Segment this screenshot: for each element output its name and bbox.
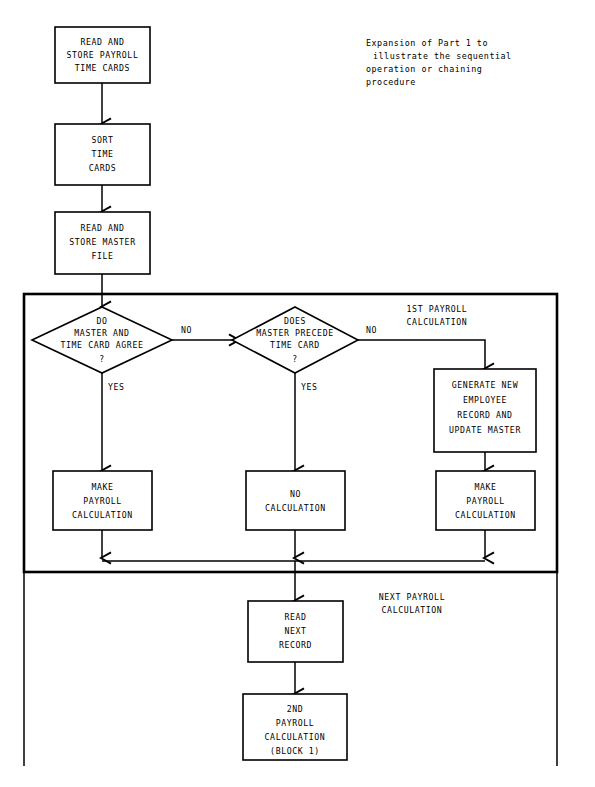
node-second-payroll-calculation[interactable]: 2ND PAYROLL CALCULATION (BLOCK 1) (243, 694, 347, 760)
node-line: STORE MASTER (69, 237, 135, 247)
node-master-time-card-agree[interactable]: DO MASTER AND TIME CARD AGREE ? (32, 307, 172, 373)
connector-decision2-no-to-generate (358, 340, 485, 369)
node-line: TIME CARD AGREE (61, 340, 144, 350)
node-line: NEXT (284, 626, 306, 636)
note-line: procedure (366, 77, 416, 87)
svg-text:CALCULATION: CALCULATION (407, 317, 468, 327)
node-read-next-record[interactable]: READ NEXT RECORD (248, 601, 343, 662)
node-line: STORE PAYROLL (67, 50, 139, 60)
node-line: FILE (91, 251, 113, 261)
node-make-payroll-calculation-left[interactable]: MAKE PAYROLL CALCULATION (53, 471, 152, 530)
node-line: UPDATE MASTER (449, 425, 521, 435)
svg-text:CALCULATION: CALCULATION (382, 605, 443, 615)
node-line: EMPLOYEE (463, 395, 507, 405)
node-generate-new-employee-record[interactable]: GENERATE NEW EMPLOYEE RECORD AND UPDATE … (434, 369, 536, 452)
node-line: TIME CARDS (75, 63, 130, 73)
node-line: NO (290, 489, 301, 499)
node-line: RECORD (279, 640, 312, 650)
svg-text:NO: NO (366, 325, 377, 335)
svg-text:1ST PAYROLL: 1ST PAYROLL (407, 304, 468, 314)
flowchart-sheet: READ AND STORE PAYROLL TIME CARDS SORT T… (0, 0, 595, 787)
section-label-next-payroll: NEXT PAYROLL CALCULATION (379, 592, 445, 615)
node-line: READ AND (80, 37, 124, 47)
node-line: CALCULATION (72, 510, 133, 520)
flowchart-canvas: READ AND STORE PAYROLL TIME CARDS SORT T… (0, 0, 595, 787)
svg-text:NO: NO (181, 325, 192, 335)
node-line: READ AND (80, 223, 124, 233)
node-line: PAYROLL (83, 496, 122, 506)
node-line: GENERATE NEW (452, 380, 518, 390)
node-line: DOES (284, 316, 306, 326)
expansion-note: Expansion of Part 1 to illustrate the se… (366, 38, 512, 87)
node-line: READ (284, 612, 306, 622)
node-line: TIME (91, 149, 113, 159)
node-line: 2ND (287, 704, 304, 714)
node-make-payroll-calculation-right[interactable]: MAKE PAYROLL CALCULATION (436, 471, 535, 530)
node-read-store-master-file[interactable]: READ AND STORE MASTER FILE (55, 212, 150, 274)
edge-label-precede-no: NO (366, 325, 377, 335)
node-no-calculation[interactable]: NO CALCULATION (246, 471, 345, 530)
section-label-first-payroll: 1ST PAYROLL CALCULATION (407, 304, 468, 327)
note-line: Expansion of Part 1 to (366, 38, 488, 48)
node-line: MAKE (474, 482, 496, 492)
node-line: DO (96, 316, 107, 326)
node-line: CALCULATION (455, 510, 516, 520)
node-read-store-time-cards[interactable]: READ AND STORE PAYROLL TIME CARDS (55, 27, 150, 83)
node-line: RECORD AND (457, 410, 512, 420)
node-line: SORT (91, 135, 113, 145)
node-line: PAYROLL (276, 718, 315, 728)
node-line: CALCULATION (265, 503, 326, 513)
svg-text:YES: YES (301, 382, 318, 392)
node-line: MASTER AND (74, 328, 129, 338)
note-line: illustrate the sequential (373, 51, 512, 61)
edge-label-agree-yes: YES (108, 382, 125, 392)
node-line: MASTER PRECEDE (256, 328, 333, 338)
edge-label-precede-yes: YES (301, 382, 318, 392)
node-line: ? (292, 354, 298, 364)
node-master-precede-time-card[interactable]: DOES MASTER PRECEDE TIME CARD ? (232, 307, 358, 373)
svg-text:YES: YES (108, 382, 125, 392)
node-line: (BLOCK 1) (270, 746, 320, 756)
node-line: CALCULATION (265, 732, 326, 742)
node-line: TIME CARD (270, 340, 320, 350)
node-sort-time-cards[interactable]: SORT TIME CARDS (55, 124, 150, 185)
svg-text:NEXT PAYROLL: NEXT PAYROLL (379, 592, 445, 602)
note-line: operation or chaining (366, 64, 482, 74)
node-line: MAKE (91, 482, 113, 492)
node-line: ? (99, 354, 105, 364)
edge-label-agree-no: NO (181, 325, 192, 335)
node-line: PAYROLL (466, 496, 505, 506)
node-line: CARDS (89, 163, 117, 173)
